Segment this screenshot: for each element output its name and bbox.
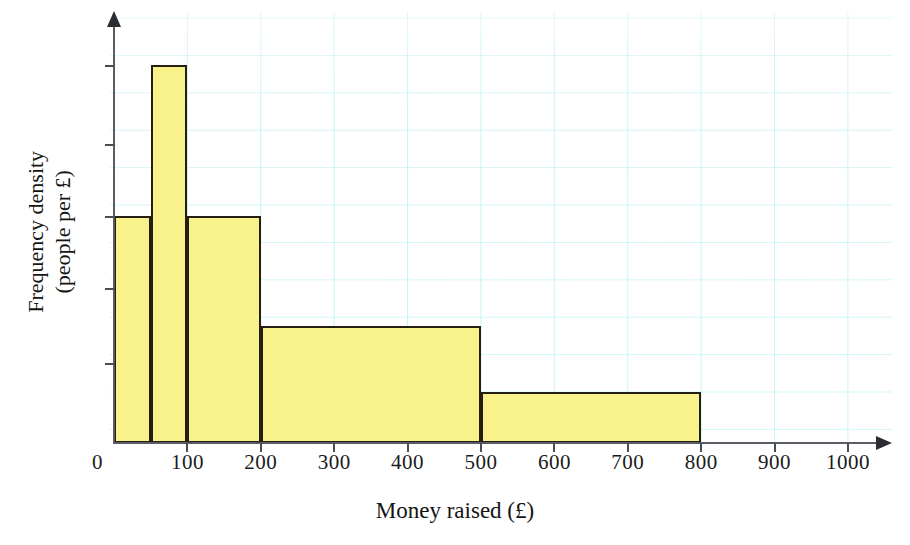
x-axis-tick-label: 0 — [92, 450, 103, 475]
x-axis-tick-label: 500 — [451, 450, 511, 475]
x-axis-tick-label: 400 — [378, 450, 438, 475]
histogram-bar — [151, 65, 188, 443]
y-axis-tick — [105, 216, 115, 218]
y-axis-title: Frequency density (people per £) — [23, 82, 77, 382]
histogram-bar — [481, 392, 701, 443]
y-axis-title-line1: Frequency density — [23, 82, 50, 382]
y-axis-tick — [105, 65, 115, 67]
histogram-bar — [114, 216, 151, 443]
x-axis-tick-label: 800 — [671, 450, 731, 475]
y-axis-line — [113, 24, 115, 444]
y-axis-tick — [105, 144, 115, 146]
x-axis-tick-label: 700 — [598, 450, 658, 475]
histogram-figure: 01002003004005006007008009001000 Money r… — [0, 0, 910, 545]
y-axis-tick — [105, 288, 115, 290]
y-axis-arrow-icon — [107, 11, 121, 27]
x-axis-arrow-icon — [876, 436, 892, 450]
x-axis-tick-label: 200 — [231, 450, 291, 475]
x-axis-tick-label: 100 — [157, 450, 217, 475]
y-axis-tick — [105, 363, 115, 365]
x-axis-line — [113, 442, 878, 444]
x-axis-title: Money raised (£) — [0, 498, 910, 524]
x-axis-tick-label: 900 — [745, 450, 805, 475]
y-axis-title-line2: (people per £) — [50, 82, 77, 382]
x-axis-tick-label: 1000 — [818, 450, 878, 475]
x-axis-tick-label: 300 — [304, 450, 364, 475]
histogram-bar — [261, 326, 481, 443]
x-axis-tick-label: 600 — [524, 450, 584, 475]
histogram-bar — [187, 216, 260, 443]
